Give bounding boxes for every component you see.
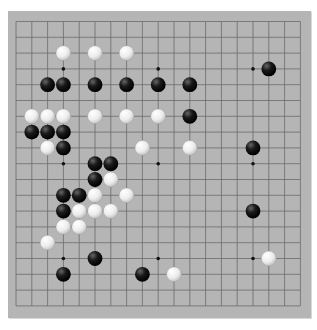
white-stone[interactable] xyxy=(135,141,150,156)
black-stone[interactable] xyxy=(56,77,71,92)
black-stone[interactable] xyxy=(182,109,197,124)
black-stone[interactable] xyxy=(56,125,71,140)
white-stone[interactable] xyxy=(119,46,134,61)
black-stone[interactable] xyxy=(24,125,39,140)
white-stone[interactable] xyxy=(151,109,166,124)
star-point xyxy=(156,162,160,166)
black-stone[interactable] xyxy=(103,156,118,171)
black-stone[interactable] xyxy=(151,77,166,92)
star-point xyxy=(251,67,255,71)
white-stone[interactable] xyxy=(88,46,103,61)
black-stone[interactable] xyxy=(119,77,134,92)
star-point xyxy=(156,67,160,71)
white-stone[interactable] xyxy=(40,235,55,250)
black-stone[interactable] xyxy=(88,77,103,92)
black-stone[interactable] xyxy=(182,77,197,92)
white-stone[interactable] xyxy=(56,220,71,235)
white-stone[interactable] xyxy=(103,204,118,219)
black-stone[interactable] xyxy=(56,204,71,219)
white-stone[interactable] xyxy=(72,204,87,219)
black-stone[interactable] xyxy=(135,267,150,282)
black-stone[interactable] xyxy=(56,188,71,203)
white-stone[interactable] xyxy=(56,46,71,61)
white-stone[interactable] xyxy=(167,267,182,282)
white-stone[interactable] xyxy=(261,251,276,266)
star-point xyxy=(251,257,255,261)
white-stone[interactable] xyxy=(40,141,55,156)
white-stone[interactable] xyxy=(24,109,39,124)
black-stone[interactable] xyxy=(246,141,261,156)
white-stone[interactable] xyxy=(40,109,55,124)
white-stone[interactable] xyxy=(72,220,87,235)
go-board-grid[interactable] xyxy=(0,0,317,330)
white-stone[interactable] xyxy=(88,109,103,124)
black-stone[interactable] xyxy=(56,141,71,156)
star-point xyxy=(251,162,255,166)
white-stone[interactable] xyxy=(182,141,197,156)
star-point xyxy=(62,257,66,261)
black-stone[interactable] xyxy=(40,125,55,140)
black-stone[interactable] xyxy=(56,267,71,282)
black-stone[interactable] xyxy=(88,156,103,171)
white-stone[interactable] xyxy=(103,172,118,187)
black-stone[interactable] xyxy=(246,204,261,219)
star-point xyxy=(62,162,66,166)
black-stone[interactable] xyxy=(261,62,276,77)
star-point xyxy=(156,257,160,261)
black-stone[interactable] xyxy=(88,172,103,187)
white-stone[interactable] xyxy=(119,109,134,124)
black-stone[interactable] xyxy=(88,251,103,266)
star-point xyxy=(62,67,66,71)
black-stone[interactable] xyxy=(72,188,87,203)
white-stone[interactable] xyxy=(88,188,103,203)
black-stone[interactable] xyxy=(40,77,55,92)
white-stone[interactable] xyxy=(56,109,71,124)
white-stone[interactable] xyxy=(119,188,134,203)
white-stone[interactable] xyxy=(88,204,103,219)
